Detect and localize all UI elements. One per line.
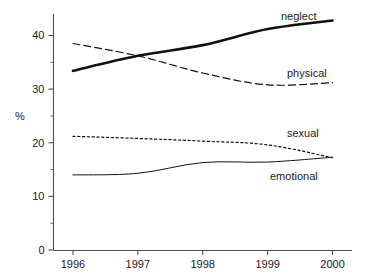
x-axis-tick-labels: 19961997199819992000 bbox=[61, 258, 345, 270]
series-layer bbox=[73, 20, 333, 174]
y-tick-label: 30 bbox=[32, 83, 44, 95]
y-tick-label: 20 bbox=[32, 137, 44, 149]
x-tick-label: 2000 bbox=[320, 258, 344, 270]
x-tick-label: 1998 bbox=[191, 258, 215, 270]
x-tick-label: 1996 bbox=[61, 258, 85, 270]
series-label-neglect: neglect bbox=[281, 10, 316, 22]
series-line-neglect bbox=[73, 20, 333, 70]
series-line-sexual bbox=[73, 136, 333, 157]
y-tick-label: 10 bbox=[32, 190, 44, 202]
y-axis-ticks bbox=[49, 35, 54, 250]
chart-canvas: 010203040 % 19961997199819992000 neglect… bbox=[0, 0, 366, 280]
x-tick-label: 1999 bbox=[255, 258, 279, 270]
y-axis: 010203040 % bbox=[15, 14, 53, 256]
series-inline-labels: neglect physical sexual emotional bbox=[270, 10, 327, 182]
series-label-physical: physical bbox=[287, 67, 327, 79]
x-axis: 19961997199819992000 bbox=[54, 250, 353, 270]
line-chart-figure: 010203040 % 19961997199819992000 neglect… bbox=[0, 0, 366, 280]
y-tick-label: 40 bbox=[32, 29, 44, 41]
series-label-emotional: emotional bbox=[270, 170, 318, 182]
y-tick-label: 0 bbox=[38, 244, 44, 256]
x-tick-label: 1997 bbox=[126, 258, 150, 270]
series-label-sexual: sexual bbox=[287, 127, 319, 139]
y-axis-tick-labels: 010203040 bbox=[32, 29, 44, 256]
y-axis-title: % bbox=[15, 110, 25, 122]
